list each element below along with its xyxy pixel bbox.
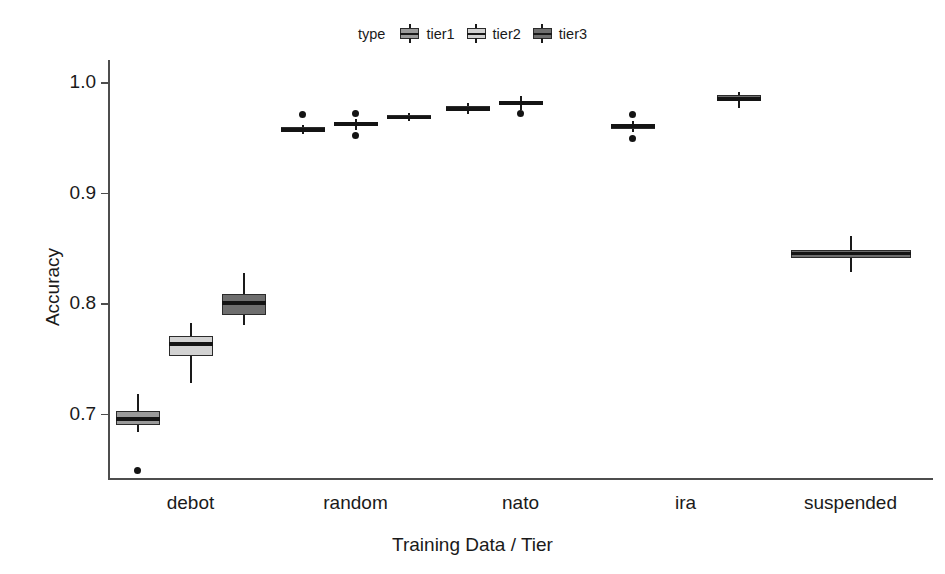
y-tick-label: 0.7 bbox=[70, 403, 96, 425]
legend-key-icon-tier2 bbox=[466, 24, 487, 43]
whisker-lower bbox=[355, 126, 357, 129]
outlier-point[interactable] bbox=[134, 467, 141, 474]
legend-key-icon-tier1 bbox=[399, 24, 420, 43]
box-plot[interactable] bbox=[169, 60, 213, 480]
legend-label-tier1: tier1 bbox=[426, 26, 454, 42]
outlier-point[interactable] bbox=[299, 111, 306, 118]
legend: type tier1 tier2 tier3 bbox=[0, 24, 945, 43]
y-tick-label: 0.9 bbox=[70, 182, 96, 204]
outlier-point[interactable] bbox=[517, 110, 524, 117]
y-axis-title: Accuracy bbox=[42, 248, 64, 326]
median-line bbox=[611, 124, 655, 128]
whisker-upper bbox=[243, 273, 245, 294]
median-line bbox=[387, 116, 431, 120]
y-tick-label: 0.8 bbox=[70, 292, 96, 314]
whisker-upper bbox=[850, 236, 852, 250]
median-line bbox=[116, 417, 160, 421]
whisker-upper bbox=[190, 323, 192, 336]
whisker-lower bbox=[850, 258, 852, 272]
median-line bbox=[222, 301, 266, 305]
x-tick-label: debot bbox=[167, 492, 215, 514]
x-tick-label: ira bbox=[675, 492, 696, 514]
outlier-point[interactable] bbox=[352, 110, 359, 117]
box-plot[interactable] bbox=[446, 60, 490, 480]
x-tick-label: nato bbox=[502, 492, 539, 514]
box-plot[interactable] bbox=[281, 60, 325, 480]
y-tick-label: 1.0 bbox=[70, 71, 96, 93]
box-plot[interactable] bbox=[791, 60, 911, 480]
y-tick-mark bbox=[101, 303, 108, 305]
y-tick-mark bbox=[101, 193, 108, 195]
legend-item-tier3[interactable]: tier3 bbox=[532, 24, 587, 43]
chart-root: type tier1 tier2 tier3 Accuracy 0.70.80.… bbox=[0, 0, 945, 574]
box-plot[interactable] bbox=[222, 60, 266, 480]
box-plot[interactable] bbox=[387, 60, 431, 480]
box-plot[interactable] bbox=[334, 60, 378, 480]
x-axis-title: Training Data / Tier bbox=[0, 534, 945, 556]
legend-title: type bbox=[358, 26, 385, 42]
x-tick-label: suspended bbox=[804, 492, 897, 514]
legend-item-tier1[interactable]: tier1 bbox=[399, 24, 454, 43]
outlier-point[interactable] bbox=[629, 135, 636, 142]
boxplot-layer bbox=[108, 60, 933, 480]
outlier-point[interactable] bbox=[629, 111, 636, 118]
median-line bbox=[169, 342, 213, 346]
whisker-lower bbox=[243, 315, 245, 325]
whisker-lower bbox=[190, 356, 192, 383]
whisker-upper bbox=[137, 394, 139, 412]
box-iqr bbox=[169, 336, 213, 356]
median-line bbox=[281, 128, 325, 132]
legend-label-tier2: tier2 bbox=[493, 26, 521, 42]
median-line bbox=[791, 252, 911, 256]
box-plot[interactable] bbox=[116, 60, 160, 480]
median-line bbox=[446, 107, 490, 111]
plot-area: 0.70.80.91.0 debotrandomnatoirasuspended bbox=[108, 60, 933, 480]
y-tick-mark bbox=[101, 82, 108, 84]
legend-key-icon-tier3 bbox=[532, 24, 553, 43]
x-tick-label: random bbox=[323, 492, 387, 514]
box-plot[interactable] bbox=[499, 60, 543, 480]
y-tick-mark bbox=[101, 414, 108, 416]
whisker-lower bbox=[137, 425, 139, 433]
median-line bbox=[717, 97, 761, 101]
whisker-lower bbox=[738, 101, 740, 108]
legend-label-tier3: tier3 bbox=[559, 26, 587, 42]
legend-item-tier2[interactable]: tier2 bbox=[466, 24, 521, 43]
whisker-lower bbox=[467, 111, 469, 114]
box-plot[interactable] bbox=[717, 60, 761, 480]
box-plot[interactable] bbox=[611, 60, 655, 480]
median-line bbox=[499, 101, 543, 105]
median-line bbox=[334, 122, 378, 126]
outlier-point[interactable] bbox=[352, 132, 359, 139]
whisker-lower bbox=[632, 129, 634, 132]
